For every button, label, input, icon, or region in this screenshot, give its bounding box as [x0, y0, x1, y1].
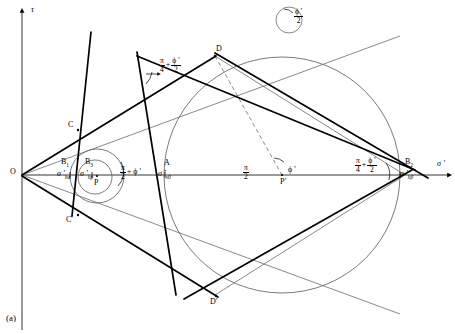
angle-big-circle-phi: ϕ '	[288, 166, 296, 174]
point-label-D: D	[216, 45, 222, 53]
marker-Cprime	[77, 214, 79, 216]
line-O-to-D	[22, 56, 216, 175]
point-label-Cprime: C'	[66, 216, 73, 224]
b2-subscript: 2	[410, 162, 413, 168]
aux-Dp-to-B2	[215, 175, 405, 295]
angle-right-wedge: π 4 + ϕ ' 2	[355, 157, 377, 174]
marker-Pprime	[281, 174, 283, 176]
angle-bc-frac: π 2	[243, 164, 249, 181]
line-Dprime-to-right	[184, 170, 412, 299]
angle-big-circle: π 2	[243, 164, 249, 181]
arc-tiny	[284, 9, 293, 13]
angle-top-right: ϕ ' 2	[294, 8, 303, 25]
point-label-Pprime: P'	[280, 178, 286, 186]
b3-subscript: 3	[90, 162, 93, 168]
tau-axis-label: τ	[31, 6, 34, 14]
stress-label-B2: σ 'hβ	[400, 170, 413, 180]
stress-label-A: σ 'v0	[158, 170, 171, 180]
angle-small-circle: π 2 +ϕ '	[120, 164, 142, 181]
b1-stress-subscript: hα	[65, 174, 71, 180]
point-label-P: P	[94, 179, 98, 187]
b3-stress-subscript: hp	[88, 174, 94, 180]
angle-tr-num: ϕ '	[294, 8, 303, 16]
point-label-B2: B2	[405, 158, 413, 168]
angle-rw-frac2: ϕ ' 2	[367, 157, 376, 174]
a-stress: σ '	[158, 169, 166, 178]
marker-C	[77, 129, 79, 131]
angle-tl-frac2: ϕ ' 2	[171, 57, 180, 74]
angle-rw-num2: ϕ '	[367, 157, 376, 165]
point-label-B1: B1	[61, 158, 69, 168]
point-label-C: C	[68, 121, 73, 129]
angle-tl-den2: 2	[171, 65, 180, 74]
line-steep-left	[72, 32, 91, 216]
angle-sc-phi: ϕ '	[132, 168, 142, 176]
stress-label-B3: σ 'hp	[80, 170, 93, 180]
b2-stress: σ '	[400, 169, 408, 178]
a-stress-subscript: v0	[166, 174, 171, 180]
b3-stress: σ '	[80, 169, 88, 178]
angle-tl-num2: ϕ '	[171, 57, 180, 65]
sigma-axis-label: σ '	[437, 160, 445, 168]
figure-caption: (a)	[6, 314, 16, 323]
radius-D	[215, 56, 282, 175]
aux-D-to-B2	[215, 56, 405, 175]
b1-stress: σ '	[57, 169, 65, 178]
angle-bc-den: 2	[243, 172, 249, 181]
angle-bc-num: π	[243, 164, 249, 172]
arc-big-center	[274, 158, 284, 162]
point-label-A: A	[164, 159, 170, 167]
stress-label-B1: σ 'hα	[57, 170, 70, 180]
marker-P	[96, 175, 98, 177]
line-D-to-B3	[215, 53, 428, 178]
marker-D	[214, 55, 216, 57]
angle-arcs	[118, 9, 390, 186]
b2-stress-subscript: hβ	[408, 174, 414, 180]
angle-tr-den: 2	[294, 16, 303, 25]
angle-top-left: π 4 + ϕ ' 2	[159, 57, 181, 74]
point-label-Dprime: D'	[210, 298, 217, 306]
angle-rw-den2: 2	[367, 165, 376, 174]
angle-tr-frac: ϕ ' 2	[294, 8, 303, 25]
b1-subscript: 1	[66, 162, 69, 168]
origin-label: O	[10, 168, 16, 176]
point-label-B3: B3	[85, 158, 93, 168]
